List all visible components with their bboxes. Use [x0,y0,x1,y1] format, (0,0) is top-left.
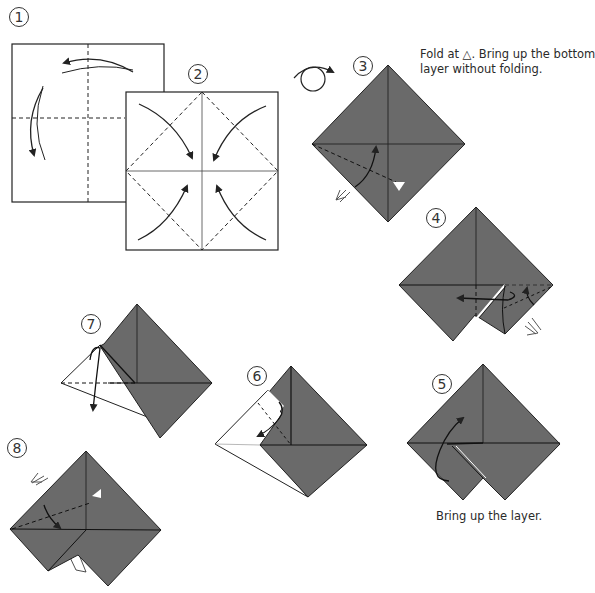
step-3-caption-line-1: Fold at △. Bring up the bottom [420,47,595,62]
step-number-7: 7 [81,314,101,334]
turn-over-icon [294,67,333,91]
step-2-square [126,92,278,250]
step-number-2: 2 [188,64,208,84]
step-number-1: 1 [9,7,29,27]
push-arrow-icon [336,190,350,202]
step-number-5: 5 [432,374,452,394]
step-number-6: 6 [247,366,267,386]
step-6-diamond [215,366,367,497]
step-5-caption: Bring up the layer. [436,509,542,524]
step-number-3: 3 [353,56,373,76]
step-3-caption-line-2: layer without folding. [420,62,542,77]
step-number-4: 4 [426,208,446,228]
push-arrow-icon [31,473,48,485]
step-8-diamond [10,451,161,586]
step-4-diamond [399,207,553,341]
step-3-diamond [294,65,465,222]
step-5-diamond [407,364,560,500]
step-number-8: 8 [7,438,27,458]
push-arrow-icon [525,318,541,335]
